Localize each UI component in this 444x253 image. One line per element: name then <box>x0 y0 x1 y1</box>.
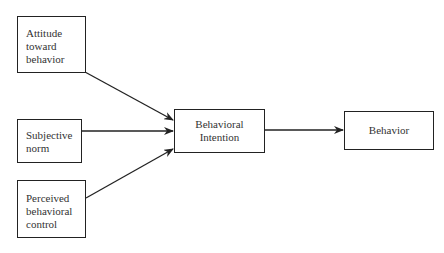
node-label-line: Behavior <box>345 124 433 137</box>
node-label-line: control <box>26 218 72 231</box>
arrow-attitude-to-intention <box>85 72 173 120</box>
node-behavioral-intention: Behavioral Intention <box>174 109 265 153</box>
node-label-line: Subjective <box>26 129 72 142</box>
node-label-line: behavioral <box>26 205 72 218</box>
node-attitude-toward-behavior: Attitude toward behavior <box>17 16 86 73</box>
node-label-line: Intention <box>175 131 264 144</box>
node-perceived-behavioral-control: Perceived behavioral control <box>17 180 86 238</box>
node-behavior: Behavior <box>344 111 434 150</box>
node-label-line: Perceived <box>26 192 72 205</box>
node-label-line: Attitude <box>26 27 64 40</box>
node-label-line: norm <box>26 142 72 155</box>
arrow-control-to-intention <box>86 149 173 198</box>
node-label-line: behavior <box>26 53 64 66</box>
node-subjective-norm: Subjective norm <box>17 119 82 163</box>
node-label-line: toward <box>26 40 64 53</box>
node-label-line: Behavioral <box>175 118 264 131</box>
